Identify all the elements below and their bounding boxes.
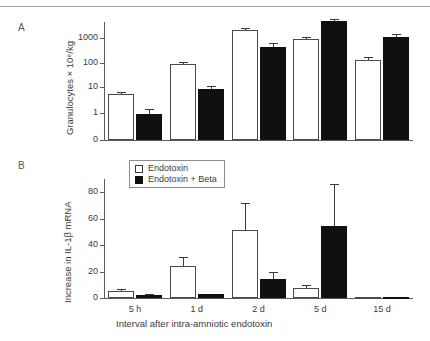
legend-swatch-filled-icon <box>135 176 143 184</box>
panel-b-x-axis-title: Interval after intra-amniotic endotoxin <box>116 318 272 329</box>
b-x-category-5h: 5 h <box>107 304 163 314</box>
panel-a-plot: Granulocytes × 10⁶/kg 10001001010 <box>0 0 430 155</box>
b-bar-5h-filled <box>136 295 162 298</box>
legend-item-endotoxin-beta: Endotoxin + Beta <box>135 175 217 184</box>
a-y-tick-1 <box>100 63 104 64</box>
a-bar-5d-open <box>293 39 319 140</box>
panel-b-y-axis-line <box>104 179 105 299</box>
b-errorbar-2d-filled <box>273 272 274 279</box>
b-errorcap-5d-open <box>302 285 311 286</box>
a-bar-5h-filled <box>136 114 162 140</box>
a-bar-2d-open <box>232 30 258 140</box>
legend-item-endotoxin: Endotoxin <box>135 164 217 173</box>
b-y-tick-2 <box>100 245 104 246</box>
b-errorcap-2d-open <box>241 203 250 204</box>
b-y-tick-0 <box>100 192 104 193</box>
b-errorbar-2d-open <box>245 203 246 230</box>
a-errorcap-5d-open <box>302 37 311 38</box>
a-y-tick-0 <box>100 38 104 39</box>
b-errorcap-2d-filled <box>269 272 278 273</box>
a-bar-15d-filled <box>383 37 409 140</box>
a-bar-5h-open <box>108 94 134 140</box>
a-y-tick-2 <box>100 87 104 88</box>
legend-swatch-open-icon <box>135 165 143 173</box>
a-y-tick-label-2: 10 <box>58 81 98 91</box>
a-y-tick-4 <box>100 140 104 141</box>
b-y-tick-label-0: 80 <box>58 186 98 196</box>
panel-a-y-axis-line <box>104 22 105 141</box>
figure-canvas: A Granulocytes × 10⁶/kg 10001001010 B In… <box>0 0 430 341</box>
legend-label-endotoxin-beta: Endotoxin + Beta <box>148 175 217 184</box>
a-errorcap-1d-filled <box>207 86 216 87</box>
a-bar-1d-filled <box>198 89 224 140</box>
a-bar-15d-open <box>355 60 381 140</box>
a-bar-2d-filled <box>260 47 286 140</box>
b-y-tick-label-3: 20 <box>58 266 98 276</box>
b-bar-1d-open <box>170 266 196 298</box>
a-errorcap-15d-open <box>364 57 373 58</box>
b-y-tick-label-1: 60 <box>58 213 98 223</box>
panel-a-x-axis-line <box>104 140 413 141</box>
a-y-tick-3 <box>100 113 104 114</box>
a-bar-1d-open <box>170 64 196 140</box>
b-errorcap-5d-filled <box>330 184 339 185</box>
b-bar-15d-open <box>355 297 381 299</box>
b-bar-15d-filled <box>383 297 409 299</box>
b-bar-2d-open <box>232 230 258 298</box>
a-errorcap-5h-open <box>117 92 126 93</box>
b-x-category-5d: 5 d <box>292 304 348 314</box>
b-errorcap-5h-filled <box>145 294 154 295</box>
legend: Endotoxin Endotoxin + Beta <box>129 160 225 188</box>
b-bar-5d-open <box>293 288 319 298</box>
b-bar-1d-filled <box>198 294 224 298</box>
a-bar-5d-filled <box>321 21 347 140</box>
b-y-tick-4 <box>100 298 104 299</box>
b-y-tick-1 <box>100 219 104 220</box>
a-y-tick-label-4: 0 <box>58 134 98 144</box>
a-errorcap-15d-filled <box>392 34 401 35</box>
b-x-category-15d: 15 d <box>354 304 410 314</box>
b-bar-2d-filled <box>260 279 286 298</box>
a-errorcap-5d-filled <box>330 19 339 20</box>
a-errorcap-2d-filled <box>269 43 278 44</box>
a-y-tick-label-1: 100 <box>58 57 98 67</box>
b-y-tick-3 <box>100 272 104 273</box>
b-y-tick-label-4: 0 <box>58 292 98 302</box>
b-bar-5d-filled <box>321 226 347 298</box>
b-bar-5h-open <box>108 291 134 298</box>
a-y-tick-label-3: 1 <box>58 107 98 117</box>
b-errorcap-1d-open <box>179 257 188 258</box>
b-errorbar-1d-open <box>183 257 184 266</box>
b-errorcap-5h-open <box>117 289 126 290</box>
a-errorcap-1d-open <box>179 62 188 63</box>
b-errorbar-5d-filled <box>334 184 335 226</box>
b-y-tick-label-2: 40 <box>58 239 98 249</box>
a-y-tick-label-0: 1000 <box>58 32 98 42</box>
legend-label-endotoxin: Endotoxin <box>148 164 188 173</box>
a-errorcap-5h-filled <box>145 109 154 110</box>
b-x-category-2d: 2 d <box>231 304 287 314</box>
a-errorcap-2d-open <box>241 28 250 29</box>
b-x-category-1d: 1 d <box>169 304 225 314</box>
